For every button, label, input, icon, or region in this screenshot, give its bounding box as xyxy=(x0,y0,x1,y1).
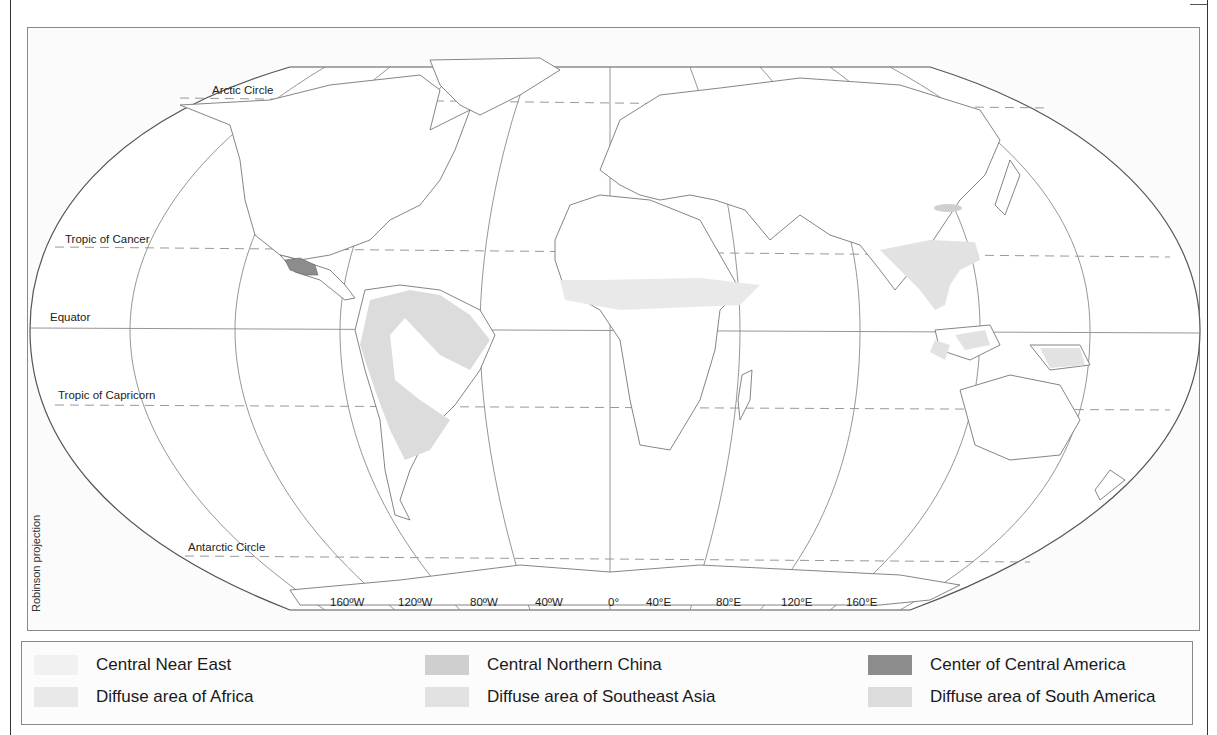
label-equator: Equator xyxy=(50,311,90,323)
legend-label: Center of Central America xyxy=(930,655,1126,675)
legend-item-africa: Diffuse area of Africa xyxy=(34,686,254,708)
label-antarctic-circle: Antarctic Circle xyxy=(188,541,265,553)
label-lon-80w: 80ºW xyxy=(470,596,498,608)
legend: Central Near East Diffuse area of Africa… xyxy=(21,641,1193,725)
legend-label: Central Northern China xyxy=(487,655,662,675)
legend-item-south-america: Diffuse area of South America xyxy=(868,686,1156,708)
label-arctic-circle: Arctic Circle xyxy=(212,84,273,96)
label-lon-160e: 160°E xyxy=(846,596,877,608)
swatch-africa xyxy=(34,687,78,707)
projection-label: Robinson projection xyxy=(30,515,42,612)
legend-item-near-east: Central Near East xyxy=(34,654,231,676)
label-lon-0: 0° xyxy=(608,596,619,608)
swatch-central-america xyxy=(868,655,912,675)
swatch-south-america xyxy=(868,687,912,707)
legend-label: Diffuse area of Africa xyxy=(96,687,254,707)
legend-label: Central Near East xyxy=(96,655,231,675)
label-tropic-of-capricorn: Tropic of Capricorn xyxy=(58,389,155,401)
label-lon-40w: 40ºW xyxy=(535,596,563,608)
legend-label: Diffuse area of South America xyxy=(930,687,1156,707)
legend-item-central-america: Center of Central America xyxy=(868,654,1126,676)
label-lon-40e: 40°E xyxy=(646,596,671,608)
label-lon-160w: 160ºW xyxy=(330,596,364,608)
label-tropic-of-cancer: Tropic of Cancer xyxy=(65,233,150,245)
legend-item-north-china: Central Northern China xyxy=(425,654,662,676)
swatch-southeast-asia xyxy=(425,687,469,707)
swatch-near-east xyxy=(34,655,78,675)
swatch-north-china xyxy=(425,655,469,675)
label-lon-120w: 120ºW xyxy=(398,596,432,608)
area-north-china xyxy=(934,204,962,212)
legend-item-southeast-asia: Diffuse area of Southeast Asia xyxy=(425,686,715,708)
label-lon-80e: 80°E xyxy=(716,596,741,608)
world-map xyxy=(0,0,1217,735)
legend-label: Diffuse area of Southeast Asia xyxy=(487,687,715,707)
label-lon-120e: 120°E xyxy=(781,596,812,608)
